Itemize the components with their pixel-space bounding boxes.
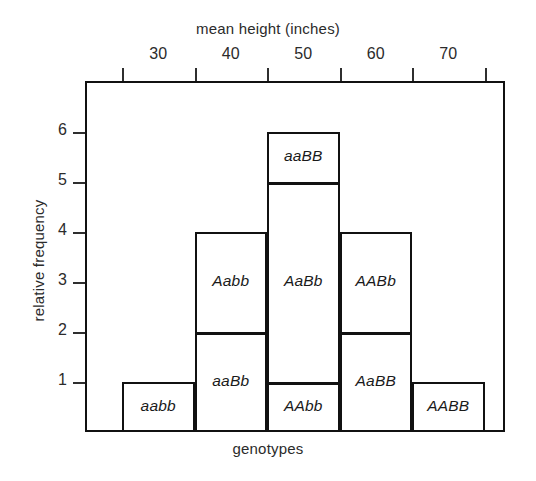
x-tick-label: 70 (408, 45, 488, 63)
bar-segment-label: AABB (412, 397, 485, 415)
y-tick-mark (73, 332, 85, 334)
x-axis-title: genotypes (0, 440, 536, 457)
y-tick-label: 4 (33, 221, 67, 239)
x-tick-label: 50 (263, 45, 343, 63)
bar-segment-divider (267, 182, 340, 185)
y-tick-mark (73, 232, 85, 234)
x-tick-mark (485, 68, 487, 81)
bar-segment-label: aaBb (195, 372, 268, 390)
bar-segment-label: Aabb (195, 272, 268, 290)
bar-segment-label: AaBb (267, 272, 340, 290)
bar-segment-divider (267, 382, 340, 385)
bar-segment-label: aabb (122, 397, 195, 415)
histogram-figure: mean height (inches) relative frequency … (0, 0, 536, 481)
y-tick-mark (73, 382, 85, 384)
bar-segment-divider (195, 332, 268, 335)
x-tick-mark (122, 68, 124, 81)
y-tick-label: 3 (33, 271, 67, 289)
y-tick-mark (73, 132, 85, 134)
bar-segment-label: aaBB (267, 147, 340, 165)
y-tick-mark (73, 282, 85, 284)
top-axis-title: mean height (inches) (0, 20, 536, 37)
y-tick-label: 1 (33, 371, 67, 389)
bar-segment-label: AaBB (340, 372, 413, 390)
bar-segment-label: AAbb (267, 397, 340, 415)
x-tick-label: 60 (336, 45, 416, 63)
bar-segment-label: AABb (340, 272, 413, 290)
y-tick-label: 2 (33, 321, 67, 339)
y-tick-mark (73, 182, 85, 184)
x-tick-mark (267, 68, 269, 81)
bar-segment-divider (340, 332, 413, 335)
x-tick-mark (195, 68, 197, 81)
y-tick-label: 5 (33, 171, 67, 189)
y-tick-label: 6 (33, 121, 67, 139)
x-tick-label: 30 (118, 45, 198, 63)
x-tick-mark (340, 68, 342, 81)
x-tick-mark (412, 68, 414, 81)
x-tick-label: 40 (191, 45, 271, 63)
